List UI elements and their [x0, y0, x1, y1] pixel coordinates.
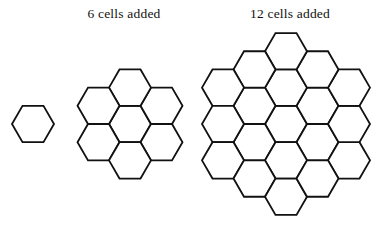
figure-nineteen-hexagons — [0, 0, 378, 236]
hexagon-growth-diagram: 6 cells added 12 cells added — [0, 0, 378, 236]
hexagon-group-nineteen — [202, 33, 370, 215]
